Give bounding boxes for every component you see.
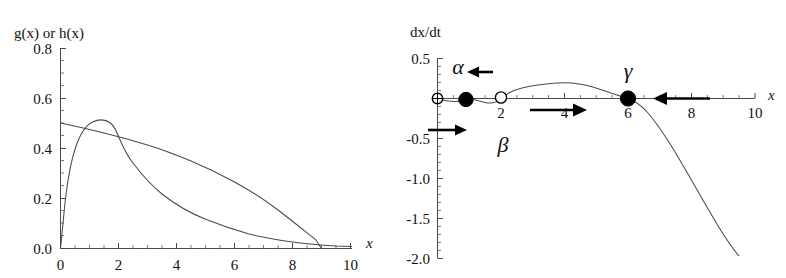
left-ytick-0-6: 0.6	[33, 91, 52, 107]
right-ytick-neg-2-0: -2.0	[406, 251, 430, 267]
right-xtick-10: 10	[748, 105, 763, 121]
alpha-label: α	[452, 54, 464, 79]
right-xtick-4: 4	[561, 105, 569, 121]
beta-label: β	[497, 132, 509, 157]
left-ytick-0-4: 0.4	[33, 141, 52, 157]
right-xtick-8: 8	[688, 105, 696, 121]
flow-arrow-right-origin	[428, 125, 467, 136]
right-y-axis-label: dx/dt	[410, 24, 442, 40]
left-xtick-2: 2	[115, 257, 123, 273]
left-y-axis-label: g(x) or h(x)	[14, 25, 84, 42]
right-ytick-0-5: 0.5	[411, 51, 430, 67]
right-y-ticks	[438, 59, 444, 259]
left-xtick-4: 4	[173, 257, 181, 273]
left-ytick-0-2: 0.2	[33, 191, 52, 207]
left-plot-svg: g(x) or h(x)	[0, 0, 390, 278]
right-ytick-neg-1-0: -1.0	[406, 171, 430, 187]
right-xtick-6: 6	[624, 105, 632, 121]
right-x-axis-label: x	[767, 87, 775, 103]
fixed-point-beta-unstable	[495, 92, 506, 103]
flow-arrow-left-alpha	[467, 67, 493, 78]
figure-container: g(x) or h(x)	[0, 0, 786, 278]
left-xtick-6: 6	[231, 257, 239, 273]
right-xtick-2: 2	[497, 105, 505, 121]
left-xtick-8: 8	[289, 257, 297, 273]
flow-arrow-left-gamma	[653, 92, 710, 105]
curve-g-of-x	[61, 120, 353, 249]
phase-line-plot: dx/dt	[390, 0, 786, 278]
left-x-axis-label: x	[365, 235, 373, 251]
gx-or-hx-plot: g(x) or h(x)	[0, 0, 390, 278]
left-xtick-10: 10	[343, 257, 358, 273]
fixed-point-alpha-stable	[459, 92, 473, 106]
flow-arrow-right-mid	[530, 104, 587, 117]
left-ytick-0-0: 0.0	[33, 241, 52, 257]
right-ytick-neg-1-5: -1.5	[406, 211, 430, 227]
left-ytick-0-8: 0.8	[33, 41, 52, 57]
right-ytick-neg-0-5: -0.5	[406, 131, 430, 147]
gamma-label: γ	[624, 58, 634, 83]
left-xtick-0: 0	[57, 257, 65, 273]
curve-h-of-x	[61, 123, 322, 249]
right-plot-svg: dx/dt	[390, 0, 786, 278]
fixed-point-gamma-stable	[620, 91, 635, 106]
